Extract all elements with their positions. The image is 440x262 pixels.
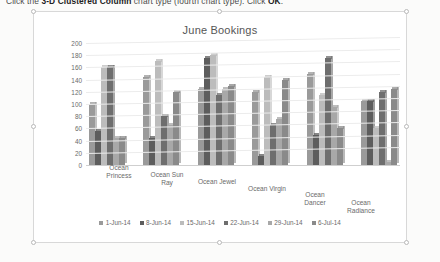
x-axis-category-label: Ocean Princess	[96, 164, 142, 180]
plot-area	[86, 43, 400, 165]
bar[interactable]	[337, 128, 343, 165]
legend-swatch-icon	[268, 221, 272, 225]
selection-handle-bottom-center[interactable]	[217, 240, 222, 245]
legend-item[interactable]: 22-Jun-14	[224, 219, 259, 226]
y-axis-tick-label: 80	[75, 113, 82, 120]
instruction-bold-ok: OK	[268, 0, 281, 6]
y-axis-tick-label: 120	[71, 88, 82, 95]
legend-label: 6-Jul-14	[318, 219, 341, 226]
y-axis-tick-label: 160	[71, 64, 82, 71]
legend-item[interactable]: 8-Jun-14	[140, 219, 171, 226]
selection-handle-top-right[interactable]	[404, 9, 409, 14]
x-axis-category-label: Ocean Virgin	[244, 185, 290, 193]
legend-swatch-icon	[312, 221, 316, 225]
bar[interactable]	[379, 92, 385, 165]
bar-front-face	[379, 92, 385, 165]
selection-handle-middle-left[interactable]	[31, 124, 36, 129]
y-axis-tick-label: 100	[71, 101, 82, 108]
legend-item[interactable]: 15-Jun-14	[180, 219, 215, 226]
bar-side-face	[288, 78, 290, 163]
bar-front-face	[282, 80, 288, 165]
y-axis-tick-label: 180	[71, 52, 82, 59]
legend-item[interactable]: 6-Jul-14	[312, 219, 341, 226]
legend-swatch-icon	[224, 221, 228, 225]
legend-swatch-icon	[99, 221, 103, 225]
y-axis-tick-label: 60	[75, 125, 82, 132]
bar-front-face	[337, 128, 343, 165]
selection-handle-middle-right[interactable]	[404, 124, 409, 129]
legend-swatch-icon	[180, 221, 184, 225]
instruction-prefix: Click the	[6, 0, 41, 6]
selection-handle-top-center[interactable]	[217, 9, 222, 14]
bar[interactable]	[252, 92, 258, 165]
selection-handle-top-left[interactable]	[31, 9, 36, 14]
x-axis-category-label: Ocean Radiance	[338, 199, 384, 215]
bar-group	[143, 43, 179, 165]
bar-side-face	[385, 90, 387, 163]
x-axis-category-label: Ocean Dancer	[292, 191, 338, 207]
y-axis-tick-label: 40	[75, 137, 82, 144]
y-axis[interactable]: 200180160140120100806040200	[58, 43, 84, 165]
selection-handle-bottom-left[interactable]	[31, 240, 36, 245]
bar[interactable]	[391, 89, 397, 165]
y-axis-tick-label: 140	[71, 76, 82, 83]
x-axis-category-labels[interactable]: Ocean PrincessOcean Sun RayOcean JewelOc…	[86, 162, 406, 214]
instruction-suffix: .	[281, 0, 283, 6]
y-axis-tick-label: 20	[75, 149, 82, 156]
bar-front-face	[252, 92, 258, 165]
selection-handle-bottom-right[interactable]	[404, 240, 409, 245]
x-axis-category-label: Ocean Sun Ray	[144, 171, 190, 187]
bar[interactable]	[282, 80, 288, 165]
legend-label: 1-Jun-14	[106, 219, 131, 226]
instruction-text: Click the 3-D Clustered Column chart typ…	[6, 0, 440, 7]
chart-title[interactable]: June Bookings	[34, 24, 406, 36]
instruction-middle: chart type (fourth chart type). Click	[131, 0, 268, 6]
y-axis-tick-label: 200	[71, 40, 82, 47]
bar-front-face	[391, 89, 397, 165]
x-axis-category-label: Ocean Jewel	[194, 178, 240, 186]
legend-label: 22-Jun-14	[230, 219, 258, 226]
legend-item[interactable]: 29-Jun-14	[268, 219, 303, 226]
instruction-bold-chart-type: 3-D Clustered Column	[41, 0, 131, 6]
bar-side-face	[343, 126, 345, 163]
y-axis-tick-label: 0	[78, 162, 82, 169]
chart-legend[interactable]: 1-Jun-148-Jun-1415-Jun-1422-Jun-1429-Jun…	[34, 219, 406, 226]
legend-label: 29-Jun-14	[274, 219, 302, 226]
legend-item[interactable]: 1-Jun-14	[99, 219, 130, 226]
chart-object[interactable]: June Bookings 20018016014012010080604020…	[33, 11, 407, 243]
bar-group	[252, 43, 288, 165]
plot-region: 200180160140120100806040200	[58, 43, 400, 165]
legend-label: 8-Jun-14	[146, 219, 171, 226]
bar-group	[198, 43, 234, 165]
legend-swatch-icon	[140, 221, 144, 225]
legend-label: 15-Jun-14	[186, 219, 214, 226]
